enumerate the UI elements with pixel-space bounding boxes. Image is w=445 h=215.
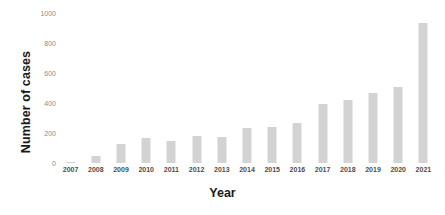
bar-slot [386, 13, 411, 163]
x-tick-label: 2017 [315, 166, 331, 174]
y-tick-label: 1000 [40, 10, 56, 17]
y-tick-label: 600 [44, 70, 56, 77]
x-tick-label: 2014 [239, 166, 255, 174]
x-tick-label: 2009 [113, 166, 129, 174]
bar-slot [234, 13, 259, 163]
bar-slot [108, 13, 133, 163]
x-tick-label: 2013 [214, 166, 230, 174]
bar [293, 123, 302, 163]
bar-slot [285, 13, 310, 163]
bar [343, 100, 352, 163]
x-tick-label: 2007 [63, 166, 79, 174]
bar-slot [159, 13, 184, 163]
bar [91, 156, 100, 164]
bar-slot [360, 13, 385, 163]
y-tick-label: 200 [44, 130, 56, 137]
bar-slot [335, 13, 360, 163]
bar [142, 138, 151, 163]
bar [419, 23, 428, 163]
bar-slot [83, 13, 108, 163]
bar [217, 137, 226, 163]
x-tick-label: 2012 [189, 166, 205, 174]
y-tick-label: 0 [52, 160, 56, 167]
y-tick-label: 800 [44, 40, 56, 47]
bar [66, 162, 75, 163]
x-tick-label: 2015 [264, 166, 280, 174]
bar [268, 127, 277, 163]
bar [318, 104, 327, 163]
y-tick-label: 400 [44, 100, 56, 107]
x-tick-label: 2019 [365, 166, 381, 174]
bar [192, 136, 201, 163]
x-tick-label: 2021 [416, 166, 432, 174]
bar-slot [260, 13, 285, 163]
bar [242, 128, 251, 163]
bar-slot [209, 13, 234, 163]
x-axis-tick-labels: 2007200820092010201120122013201420152016… [58, 166, 436, 178]
x-axis-title: Year [0, 186, 445, 200]
plot-area [58, 13, 436, 163]
bar-slot [411, 13, 436, 163]
bar-slot [184, 13, 209, 163]
bar [116, 144, 125, 164]
x-tick-label: 2018 [340, 166, 356, 174]
bar [394, 87, 403, 164]
x-tick-label: 2011 [164, 166, 179, 174]
bar [368, 93, 377, 163]
bar-slot [310, 13, 335, 163]
y-axis-tick-labels: 02004006008001000 [30, 13, 56, 163]
bar-slot [134, 13, 159, 163]
x-tick-label: 2010 [138, 166, 154, 174]
bars-layer [58, 13, 436, 163]
x-tick-label: 2008 [88, 166, 104, 174]
bar-chart: Number of cases 02004006008001000 200720… [0, 0, 445, 215]
x-tick-label: 2016 [290, 166, 306, 174]
bar [167, 141, 176, 164]
x-tick-label: 2020 [390, 166, 406, 174]
bar-slot [58, 13, 83, 163]
